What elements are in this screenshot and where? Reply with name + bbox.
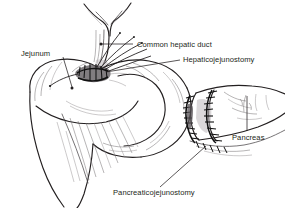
figure-background — [0, 0, 285, 208]
label-common-hepatic-duct: Common hepatic duct — [137, 40, 213, 49]
label-jejunum: Jejunum — [21, 49, 50, 58]
anastomosis-diagram: Jejunum Common hepatic duct Hepaticojeju… — [0, 0, 285, 208]
medical-illustration-figure: Jejunum Common hepatic duct Hepaticojeju… — [0, 0, 285, 208]
leader-dot-jejunum — [71, 87, 74, 90]
label-hepaticojejunostomy: Hepaticojejunostomy — [183, 55, 255, 64]
label-pancreas: Pancreas — [232, 133, 265, 142]
label-pancreaticojejunostomy: Pancreaticojejunostomy — [113, 188, 195, 197]
leader-dot-common-hepatic-duct — [100, 43, 103, 46]
